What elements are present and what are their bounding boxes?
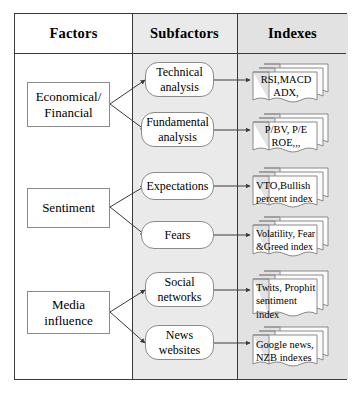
index-doc-stack-social[interactable]: Twits, Prophit sentiment index [252, 269, 332, 319]
subfactor-label-technical-analysis: Technical analysis [156, 65, 202, 94]
subfactor-box-fundamental-analysis[interactable]: Fundamental analysis [141, 112, 214, 147]
subfactor-label-fundamental-analysis: Fundamental analysis [146, 115, 209, 144]
column-header-factors: Factors [15, 14, 132, 53]
subfactor-label-expectations: Expectations [147, 179, 209, 193]
subfactor-label-social-networks: Social networks [158, 275, 202, 304]
index-label-fears: Volatility, Fear &Greed index [256, 228, 317, 253]
index-doc-stack-expectations[interactable]: VTO,Bullish percent index [252, 166, 332, 210]
subfactor-label-news-websites: News websites [159, 328, 200, 357]
index-doc-stack-news[interactable]: Google news, NZB indexes [252, 325, 332, 369]
subfactor-box-technical-analysis[interactable]: Technical analysis [145, 62, 214, 97]
factors-subfactors-indexes-diagram: Factors Subfactors Indexes Economical [0, 0, 361, 395]
index-doc-stack-fears[interactable]: Volatility, Fear &Greed index [252, 215, 332, 259]
column-header-indexes: Indexes [237, 14, 348, 53]
column-divider-1 [132, 14, 133, 379]
subfactor-box-expectations[interactable]: Expectations [141, 172, 214, 200]
factor-label-media-influence: Media influence [44, 297, 92, 329]
factor-box-media-influence[interactable]: Media influence [27, 291, 110, 334]
header-row: Factors Subfactors Indexes [15, 14, 346, 53]
index-label-expectations: VTO,Bullish percent index [256, 179, 316, 206]
column-divider-2 [237, 14, 238, 379]
header-divider [15, 53, 346, 54]
column-header-subfactors: Subfactors [132, 14, 237, 53]
factor-label-economical-financial: Economical/ Financial [36, 89, 102, 121]
index-label-news: Google news, NZB indexes [256, 338, 316, 365]
subfactor-box-social-networks[interactable]: Social networks [145, 272, 214, 307]
factor-box-sentiment[interactable]: Sentiment [27, 188, 110, 228]
index-doc-stack-fundamental[interactable]: P/BV, P/E ROE,,, [252, 112, 332, 154]
index-label-fundamental: P/BV, P/E ROE,,, [257, 123, 315, 150]
subfactor-label-fears: Fears [165, 228, 191, 242]
subfactor-box-news-websites[interactable]: News websites [145, 325, 214, 360]
factor-label-sentiment: Sentiment [42, 200, 95, 216]
subfactor-box-fears[interactable]: Fears [141, 221, 214, 249]
index-label-social: Twits, Prophit sentiment index [256, 281, 316, 321]
index-label-technical: RSI,MACD ADX, [257, 73, 315, 100]
index-doc-stack-technical[interactable]: RSI,MACD ADX, [252, 62, 332, 104]
factor-box-economical-financial[interactable]: Economical/ Financial [27, 82, 110, 127]
